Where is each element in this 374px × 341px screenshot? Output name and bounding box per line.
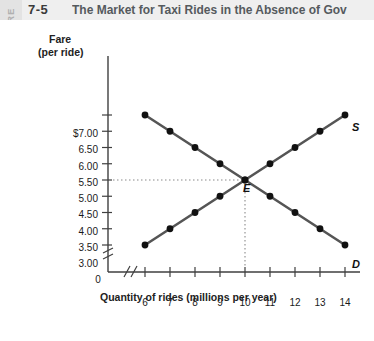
demand-curve-label: D bbox=[352, 258, 360, 270]
data-point-markers bbox=[142, 112, 349, 249]
demand-point-2 bbox=[192, 144, 199, 151]
x-tick-label-1: 7 bbox=[161, 297, 179, 308]
figure-number: 7-5 bbox=[28, 2, 48, 17]
demand-point-0 bbox=[142, 112, 149, 119]
y-tick-label-8: $7.00 bbox=[52, 128, 98, 139]
x-tick-label-8: 14 bbox=[336, 297, 354, 308]
supply-point-2 bbox=[192, 209, 199, 216]
demand-point-7 bbox=[317, 225, 324, 232]
supply-point-0 bbox=[142, 242, 149, 249]
y-tick-label-4: 5.00 bbox=[52, 193, 98, 204]
supply-point-8 bbox=[342, 112, 349, 119]
y-tick-label-3: 4.50 bbox=[52, 209, 98, 220]
y-tick-label-1: 3.50 bbox=[52, 242, 98, 253]
x-tick-label-5: 11 bbox=[261, 297, 279, 308]
demand-point-3 bbox=[217, 160, 224, 167]
chart-area: Fare (per ride) Quantity of rides (milli… bbox=[0, 20, 374, 341]
y-tick-label-6: 6.00 bbox=[52, 161, 98, 172]
x-tick-label-4: 10 bbox=[236, 297, 254, 308]
x-axis-origin-label: 0 bbox=[89, 274, 107, 285]
supply-point-1 bbox=[167, 225, 174, 232]
demand-point-6 bbox=[292, 209, 299, 216]
figure-title: The Market for Taxi Rides in the Absence… bbox=[72, 3, 374, 17]
y-tick-label-5: 5.50 bbox=[52, 177, 98, 188]
demand-point-8 bbox=[342, 242, 349, 249]
demand-point-5 bbox=[267, 193, 274, 200]
x-tick-label-3: 9 bbox=[211, 297, 229, 308]
y-tick-label-7: 6.50 bbox=[52, 144, 98, 155]
supply-point-3 bbox=[217, 193, 224, 200]
x-tick-label-0: 6 bbox=[136, 297, 154, 308]
supply-point-6 bbox=[292, 144, 299, 151]
demand-point-1 bbox=[167, 128, 174, 135]
y-tick-label-0: 3.00 bbox=[52, 258, 98, 269]
equilibrium-point-label: E bbox=[243, 182, 250, 194]
y-tick-label-2: 4.00 bbox=[52, 226, 98, 237]
supply-point-7 bbox=[317, 128, 324, 135]
x-tick-label-7: 13 bbox=[311, 297, 329, 308]
supply-point-5 bbox=[267, 160, 274, 167]
x-tick-label-6: 12 bbox=[286, 297, 304, 308]
x-tick-label-2: 8 bbox=[186, 297, 204, 308]
supply-curve-label: S bbox=[352, 121, 359, 133]
